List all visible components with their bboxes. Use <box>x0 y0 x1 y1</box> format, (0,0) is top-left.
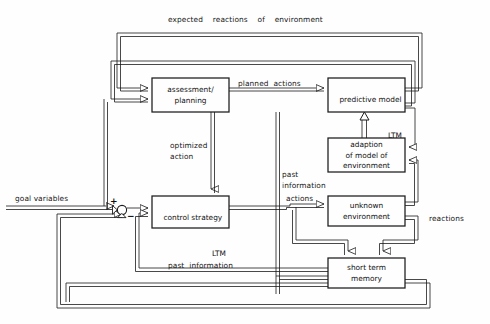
block-label-unknown-environment: unknownenvironment <box>328 201 405 222</box>
label-past-information-lower: past information <box>168 261 233 270</box>
predictive-model-title: predictive model <box>339 95 401 104</box>
edge-unknown-to-adaption-outer <box>405 160 418 202</box>
edge-bottom-return-outer <box>66 283 328 296</box>
label-reactions: reactions <box>429 214 464 223</box>
diagram-canvas: assessment/planning predictive model LTM… <box>0 0 490 324</box>
label-actions: actions <box>286 194 313 203</box>
edge-actions-outer <box>229 204 324 206</box>
junction-minus-sign: − <box>127 211 135 221</box>
edge-bottom-return-inner <box>70 287 329 297</box>
edge-actions-inner <box>229 208 324 210</box>
block-label-short-term-memory: short termmemory <box>328 263 405 284</box>
control-strategy-title: control strategy <box>163 213 222 222</box>
label-goal-variables: goal variables <box>15 194 68 203</box>
edge-predictive-to-adaption-outer <box>405 108 415 147</box>
block-label-control-strategy: control strategy LTM <box>154 200 229 284</box>
block-label-adaption-of-model: adaptionof model ofenvironment <box>328 140 405 172</box>
block-label-assessment-planning: assessment/planning <box>152 84 229 106</box>
label-past-information-upper: pastinformation <box>282 170 326 191</box>
edge-unknown-to-adaption-inner <box>405 164 415 206</box>
label-expected-reactions: expected reactions of environment <box>168 15 323 24</box>
diagram-lines <box>0 0 490 324</box>
junction-arrow-plus <box>113 206 118 215</box>
label-planned-actions: planned actions <box>238 79 301 88</box>
control-strategy-ltm: LTM <box>154 248 229 260</box>
junction-plus-sign: + <box>110 196 118 206</box>
label-optimized-action: optimizedaction <box>170 141 207 162</box>
